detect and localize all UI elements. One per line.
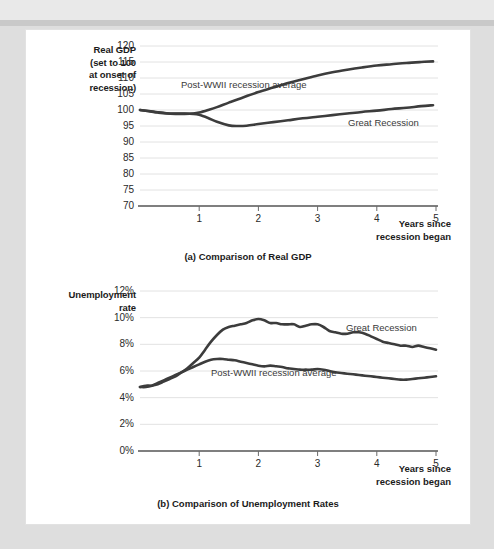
panel-real-gdp: Real GDP (set to 100 at onset of recessi…	[26, 30, 470, 270]
unemployment-y-tick-label: 10%	[100, 313, 134, 323]
gdp-y-tick-label: 120	[100, 41, 134, 51]
unemployment-y-tick-label: 2%	[100, 419, 134, 429]
unemployment-x-tick-label: 1	[189, 459, 209, 469]
unemployment-x-tick-label: 2	[248, 459, 268, 469]
gdp-x-axis-label: Years since recession began	[351, 218, 451, 243]
figure-page-card: Real GDP (set to 100 at onset of recessi…	[26, 30, 470, 524]
gdp-x-tick-label: 3	[308, 214, 328, 224]
gdp-panel-caption: (a) Comparison of Real GDP	[26, 251, 470, 263]
unemployment-y-tick-label: 4%	[100, 393, 134, 403]
unemployment-x-axis-label: Years since recession began	[351, 463, 451, 488]
unemployment-series-label-great-recession: Great Recession	[346, 323, 417, 333]
unemployment-x-axis-label-line-1: Years since	[351, 463, 451, 476]
gdp-chart-svg	[26, 30, 470, 230]
gdp-y-tick-label: 110	[100, 73, 134, 83]
gdp-x-tick-label: 1	[189, 214, 209, 224]
figure-root: Real GDP (set to 100 at onset of recessi…	[0, 0, 494, 549]
gdp-x-axis-label-line-1: Years since	[351, 218, 451, 231]
unemployment-x-tick-label: 3	[308, 459, 328, 469]
panel-unemployment-rate: Unemployment rate 0%2%4%6%8%10%12% 12345…	[26, 275, 470, 524]
gdp-y-tick-label: 80	[100, 169, 134, 179]
gdp-series-label-postwwii: Post-WWII recession average	[181, 80, 307, 90]
gdp-plot-area	[26, 30, 470, 230]
unemployment-y-tick-label: 8%	[100, 339, 134, 349]
gdp-x-axis-label-line-2: recession began	[351, 231, 451, 244]
unemployment-panel-caption: (b) Comparison of Unemployment Rates	[26, 498, 470, 510]
gdp-series-label-great-recession: Great Recession	[348, 118, 419, 128]
unemployment-x-axis-label-line-2: recession began	[351, 476, 451, 489]
gdp-y-tick-label: 105	[100, 89, 134, 99]
unemployment-y-tick-label: 12%	[100, 286, 134, 296]
gdp-x-tick-label: 2	[248, 214, 268, 224]
gdp-y-tick-label: 75	[100, 185, 134, 195]
gdp-y-tick-label: 90	[100, 137, 134, 147]
gdp-y-tick-label: 85	[100, 153, 134, 163]
unemployment-series-label-postwwii: Post-WWII recession average	[211, 368, 337, 378]
gdp-y-tick-label: 70	[100, 201, 134, 211]
gdp-y-tick-label: 115	[100, 57, 134, 67]
gdp-y-tick-label: 100	[100, 105, 134, 115]
unemployment-y-tick-label: 0%	[100, 446, 134, 456]
gdp-y-tick-label: 95	[100, 121, 134, 131]
unemployment-y-tick-label: 6%	[100, 366, 134, 376]
